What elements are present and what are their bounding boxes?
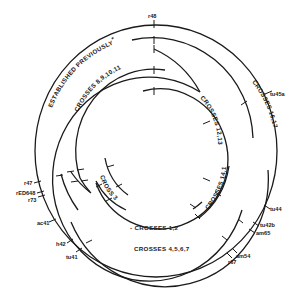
tick-cross3-1 (107, 165, 114, 167)
marker-am54: am54 (236, 253, 251, 259)
marker-h42: h42 (56, 241, 66, 247)
marker-tu42b: tu42b (260, 222, 276, 228)
crosses-8-11-arc-top (154, 49, 200, 92)
tick-c3-r1 (238, 219, 243, 223)
marker-am65: am65 (256, 230, 270, 236)
crosses-14-15-inner-arc (193, 202, 202, 209)
marker-ac41: ac41 (37, 220, 49, 226)
linkage-map-diagram: ESTABLISHED PREVIOUSLY* CROSSES 8,9,10,1… (0, 0, 295, 291)
marker-tu44: tu44 (270, 206, 282, 212)
tick-left-a5 (81, 180, 88, 181)
tick-c14-3 (190, 204, 196, 208)
marker-r47: r47 (24, 180, 32, 186)
marker-r67: r67 (228, 259, 236, 265)
marker-r73: r73 (28, 197, 36, 203)
tick-rED648 (37, 191, 44, 193)
crosses-4-7-label: CROSSES 4,5,6,7 (134, 245, 190, 252)
tick-c3-r2 (222, 236, 227, 240)
tick-r67 (227, 253, 232, 258)
marker-tu45a: tu45a (270, 91, 286, 97)
crosses-8-11-label: CROSSES 8,9,10,11 (73, 63, 123, 112)
marker-tu41: tu41 (66, 254, 78, 260)
tick-r73 (38, 195, 45, 197)
crosses-16-17-label: CROSSES 16,17 (251, 78, 279, 128)
left-arc-a (61, 174, 78, 210)
marker-r48: r48 (148, 13, 156, 19)
tick-left-a3 (71, 181, 78, 182)
marker-rED648: rED648 (16, 190, 35, 196)
tick-c5-right (203, 121, 210, 124)
crosses-1-2-label: - CROSSES 1,2 (130, 224, 179, 231)
left-arc-b (71, 172, 91, 193)
tick-c2-left (86, 240, 92, 243)
tick-left-a2 (67, 171, 74, 172)
tick-r47 (34, 181, 41, 183)
crosses-12-13-label: CROSSES 12,13 (199, 94, 224, 145)
tick-c5-right-low (203, 178, 210, 181)
